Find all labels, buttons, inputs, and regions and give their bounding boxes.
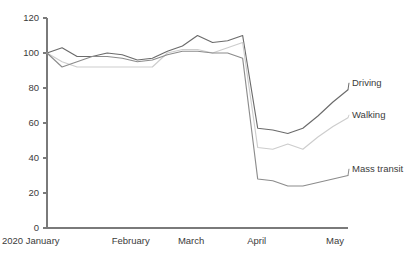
x-tick-label-january: 2020 January xyxy=(2,235,60,246)
x-tick-label-february: February xyxy=(112,235,150,246)
chart-svg: 120 100 80 60 40 20 0 2020 January Febru… xyxy=(0,0,410,257)
y-tick-label-40: 40 xyxy=(28,152,39,163)
y-axis-group: 120 100 80 60 40 20 0 xyxy=(23,12,47,233)
leader-line-walking xyxy=(348,115,349,118)
series-line-walking xyxy=(47,43,348,150)
y-tick-label-80: 80 xyxy=(28,82,39,93)
inline-legend-group: Driving Walking Mass transit xyxy=(348,77,404,176)
y-tick-label-0: 0 xyxy=(34,222,39,233)
leader-line-driving xyxy=(348,83,349,90)
mobility-index-line-chart: 120 100 80 60 40 20 0 2020 January Febru… xyxy=(0,0,410,257)
leader-line-mass-transit xyxy=(348,169,349,176)
series-label-driving: Driving xyxy=(352,77,382,88)
x-tick-label-april: April xyxy=(247,235,266,246)
series-label-walking: Walking xyxy=(352,109,385,120)
x-tick-label-may: May xyxy=(326,235,344,246)
series-lines-group xyxy=(47,36,348,187)
x-tick-label-march: March xyxy=(178,235,204,246)
y-tick-label-60: 60 xyxy=(28,117,39,128)
y-axis-ticks xyxy=(43,18,47,228)
series-label-mass-transit: Mass transit xyxy=(352,163,404,174)
series-line-driving xyxy=(47,36,348,134)
series-line-mass-transit xyxy=(47,51,348,186)
x-axis-group: 2020 January February March April May xyxy=(2,228,348,246)
y-tick-label-20: 20 xyxy=(28,187,39,198)
y-tick-label-100: 100 xyxy=(23,47,39,58)
y-tick-label-120: 120 xyxy=(23,12,39,23)
